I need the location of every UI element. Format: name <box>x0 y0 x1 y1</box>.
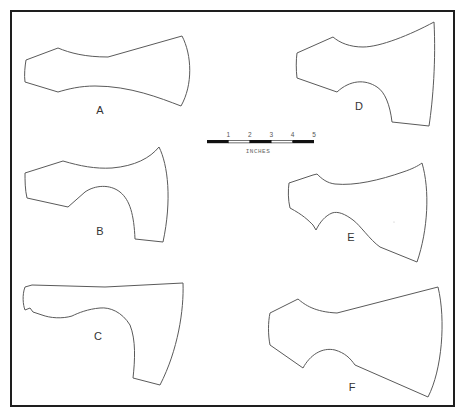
shape-label-a: A <box>96 104 104 116</box>
scale-unit-label: INCHES <box>246 148 271 155</box>
axe-head-outline-diagram: A B C D E F 1 2 3 4 5 INCHES <box>0 0 469 420</box>
scale-tick-label: 4 <box>291 131 295 138</box>
shape-label-e: E <box>347 231 354 243</box>
scale-tick-label: 2 <box>248 131 252 138</box>
scale-tick-label: 5 <box>312 131 316 138</box>
shape-label-c: C <box>94 330 102 342</box>
background <box>0 0 469 420</box>
scale-segment-3-4 <box>271 140 292 143</box>
scale-segment-1-2 <box>228 140 249 143</box>
scale-segment-2-3 <box>250 140 271 143</box>
shape-label-f: F <box>349 381 356 393</box>
scale-tick-label: 1 <box>227 131 231 138</box>
shape-label-d: D <box>355 100 363 112</box>
scale-tick-label: 3 <box>269 131 273 138</box>
speck-mark <box>393 221 394 222</box>
scale-segment-4-5 <box>293 140 314 143</box>
scale-segment-0-1 <box>207 140 228 143</box>
shape-label-b: B <box>96 225 103 237</box>
